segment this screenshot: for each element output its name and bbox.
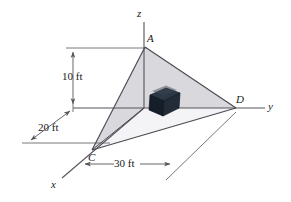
dimension-label-30ft: 30 ft (114, 158, 134, 169)
dimension-20ft (22, 104, 110, 143)
statics-figure: z y x A C D 10 ft 20 ft 30 ft (0, 0, 291, 202)
z-axis-label: z (137, 8, 141, 19)
x-axis-label: x (51, 179, 56, 190)
dimension-label-20ft: 20 ft (38, 122, 58, 133)
y-axis-label: y (268, 101, 273, 112)
dimension-label-10ft: 10 ft (62, 71, 82, 82)
figure-drawing (0, 0, 291, 202)
point-label-a: A (147, 33, 154, 44)
point-label-d: D (236, 94, 244, 105)
point-label-c: C (88, 152, 95, 163)
